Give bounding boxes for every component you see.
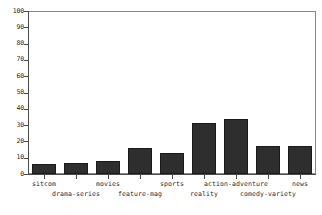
- y-tick-label: 10: [0, 154, 24, 161]
- bar: [192, 123, 216, 174]
- x-tick: [268, 175, 269, 179]
- bar: [96, 161, 120, 174]
- bar: [128, 148, 152, 174]
- y-tick-label: 70: [0, 56, 24, 63]
- x-tick-label: drama-series: [52, 190, 100, 198]
- x-tick-label: sitcom: [32, 180, 56, 188]
- x-tick: [140, 175, 141, 179]
- x-tick-label: sports: [160, 180, 184, 188]
- y-tick-label: 40: [0, 105, 24, 112]
- x-tick: [44, 175, 45, 179]
- x-tick: [300, 175, 301, 179]
- x-tick-label: comedy-variety: [240, 190, 296, 198]
- x-tick: [204, 175, 205, 179]
- y-tick-label: 20: [0, 138, 24, 145]
- y-tick-label: 0: [0, 171, 24, 178]
- x-tick: [108, 175, 109, 179]
- y-tick-label: 50: [0, 89, 24, 96]
- y-tick-label: 80: [0, 40, 24, 47]
- y-tick-label: 30: [0, 122, 24, 129]
- x-tick-label: reality: [190, 190, 218, 198]
- x-tick-label: feature-mag: [118, 190, 162, 198]
- x-tick: [172, 175, 173, 179]
- x-tick: [76, 175, 77, 179]
- x-tick-label: action-adventure: [204, 180, 268, 188]
- bar: [32, 164, 56, 174]
- y-tick-label: 60: [0, 73, 24, 80]
- bar: [160, 153, 184, 174]
- bar: [224, 119, 248, 174]
- x-tick-label: movies: [96, 180, 120, 188]
- bars-layer: [28, 11, 316, 174]
- x-tick: [236, 175, 237, 179]
- bar-chart: 0102030405060708090100 sitcomdrama-serie…: [0, 0, 322, 215]
- y-tick-label: 90: [0, 24, 24, 31]
- bar: [288, 146, 312, 174]
- y-tick: [24, 174, 29, 175]
- bar: [256, 146, 280, 174]
- bar: [64, 163, 88, 174]
- y-tick-label: 100: [0, 8, 24, 15]
- x-tick-label: news: [292, 180, 308, 188]
